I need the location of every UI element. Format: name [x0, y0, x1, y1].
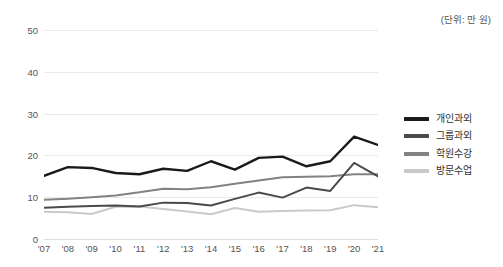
legend-label: 개인과외	[436, 114, 472, 124]
x-tick-label-18: '18	[300, 243, 312, 254]
x-axis: '07'08'09'10'11'12'13'14'15'16'17'18'19'…	[44, 243, 378, 261]
y-tick-label-30: 30	[8, 108, 38, 119]
y-axis: 01020304050	[6, 30, 38, 239]
legend-swatch-개인과외	[404, 117, 429, 121]
x-tick-label-08: '08	[62, 243, 74, 254]
x-tick-label-15: '15	[229, 243, 241, 254]
y-tick-label-20: 20	[8, 150, 38, 161]
x-tick-label-14: '14	[205, 243, 217, 254]
y-tick-label-50: 50	[8, 25, 38, 36]
series-lines	[44, 30, 378, 239]
x-tick-label-09: '09	[86, 243, 98, 254]
legend-label: 그룹과외	[436, 131, 472, 141]
x-tick-label-07: '07	[38, 243, 50, 254]
series-line-학원수강	[44, 174, 378, 200]
x-tick-label-19: '19	[324, 243, 336, 254]
legend-swatch-방문수업	[404, 169, 429, 173]
legend-item-그룹과외[interactable]: 그룹과외	[404, 128, 499, 146]
x-tick-label-16: '16	[253, 243, 265, 254]
x-tick-label-17: '17	[276, 243, 288, 254]
x-tick-label-10: '10	[109, 243, 121, 254]
legend-item-방문수업[interactable]: 방문수업	[404, 163, 499, 181]
unit-label: (단위: 만 원)	[441, 12, 491, 26]
y-tick-label-40: 40	[8, 66, 38, 77]
y-tick-label-0: 0	[8, 234, 38, 245]
legend-label: 방문수업	[436, 166, 472, 176]
legend-item-학원수강[interactable]: 학원수강	[404, 145, 499, 163]
series-line-개인과외	[44, 137, 378, 176]
legend-item-개인과외[interactable]: 개인과외	[404, 110, 499, 128]
legend: 개인과외그룹과외학원수강방문수업	[404, 110, 499, 180]
gridline-0	[44, 239, 378, 240]
legend-swatch-학원수강	[404, 152, 429, 156]
legend-swatch-그룹과외	[404, 134, 429, 138]
legend-label: 학원수강	[436, 149, 472, 159]
x-tick-label-13: '13	[181, 243, 193, 254]
x-tick-label-20: '20	[348, 243, 360, 254]
x-tick-label-11: '11	[134, 243, 146, 254]
y-tick-label-10: 10	[8, 192, 38, 203]
x-tick-label-12: '12	[157, 243, 169, 254]
line-chart: (단위: 만 원) 01020304050 '07'08'09'10'11'12…	[0, 0, 503, 267]
plot-area	[44, 30, 378, 239]
x-tick-label-21: '21	[372, 243, 384, 254]
